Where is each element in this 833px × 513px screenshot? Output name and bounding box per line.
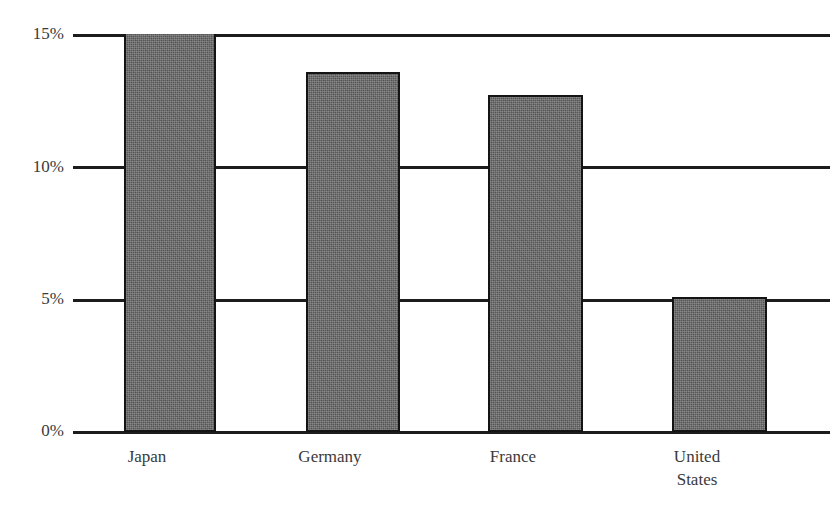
bar-japan[interactable] <box>124 34 216 432</box>
x-axis-label-japan-line-1: Japan <box>78 445 216 468</box>
y-axis-tick-0: 0% <box>4 421 64 441</box>
plot-area <box>73 34 830 432</box>
y-axis-tick-5: 5% <box>4 289 64 309</box>
bar-germany[interactable] <box>306 72 400 432</box>
y-axis-tick-10: 10% <box>4 157 64 177</box>
y-axis-tick-15: 15% <box>4 24 64 44</box>
bar-united-states[interactable] <box>672 297 767 432</box>
x-axis-label-france: France <box>442 445 584 468</box>
x-axis-label-germany-line-1: Germany <box>259 445 401 468</box>
x-axis-label-united-states: United States <box>625 445 769 491</box>
x-axis-label-united-states-line-2: States <box>625 468 769 491</box>
x-axis-label-germany: Germany <box>259 445 401 468</box>
bar-france[interactable] <box>488 95 583 432</box>
chart-title <box>0 0 833 3</box>
x-axis-label-united-states-line-1: United <box>625 445 769 468</box>
bar-chart: 15% 10% 5% 0% Japan Germany France Unite… <box>0 0 833 513</box>
x-axis-label-france-line-1: France <box>442 445 584 468</box>
x-axis-label-japan: Japan <box>78 445 216 468</box>
